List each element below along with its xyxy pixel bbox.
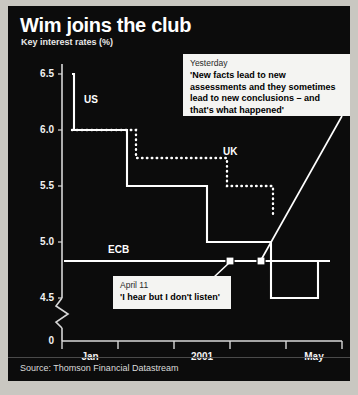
callout-quote: 'New facts lead to new assessments and t…: [190, 70, 344, 116]
ecb-marker-yesterday: [257, 257, 265, 265]
footer-divider: [8, 357, 350, 358]
y-tick-label: 4.5: [20, 292, 54, 303]
callout-yesterday: Yesterday 'New facts lead to new assessm…: [183, 54, 350, 116]
chart-panel: Wim joins the club Key interest rates (%…: [8, 6, 350, 381]
series-label-ecb: ECB: [108, 244, 129, 255]
series-label-us: US: [84, 94, 98, 105]
y-tick-label: 0: [20, 335, 54, 346]
y-tick-label: 5.5: [20, 180, 54, 191]
callout-lead: Yesterday: [190, 58, 344, 69]
series-line-uk: [72, 130, 273, 214]
chart-page: Wim joins the club Key interest rates (%…: [0, 0, 358, 395]
callout-quote: 'I hear but I don't listen': [120, 292, 225, 304]
source-attribution: Source: Thomson Financial Datastream: [20, 363, 178, 373]
series-label-uk: UK: [223, 146, 237, 157]
callout-april-11: April 11 'I hear but I don't listen': [113, 276, 231, 309]
y-tick-label: 6.0: [20, 124, 54, 135]
callout-lead: April 11: [120, 280, 225, 291]
y-tick-label: 6.5: [20, 68, 54, 79]
y-tick-label: 5.0: [20, 236, 54, 247]
